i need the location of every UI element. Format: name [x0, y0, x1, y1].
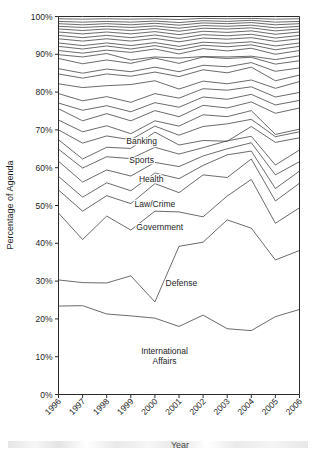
annotation-government: Government — [136, 222, 183, 232]
series-line-band-29 — [59, 18, 300, 19]
series-line-band-28 — [59, 20, 300, 22]
x-tick-label: 2002 — [187, 396, 208, 417]
annotation-affairs: Affairs — [153, 356, 177, 366]
series-line-international-affairs — [59, 306, 300, 331]
annotation-defense: Defense — [166, 278, 198, 288]
y-tick-label: 40% — [35, 238, 52, 248]
series-line-band-10 — [59, 111, 300, 135]
series-line-band-16 — [59, 63, 300, 74]
x-tick-labels: 1996199719981999200020012002200320042005… — [43, 396, 305, 417]
x-tick-label: 2004 — [235, 396, 256, 417]
y-tick-label: 50% — [35, 201, 52, 211]
series-annotations: BankingBankingSportsSportsHealthHealthLa… — [126, 136, 197, 366]
y-tick-label: 80% — [35, 87, 52, 97]
series-line-band-21 — [59, 42, 300, 47]
y-tick-label: 30% — [35, 276, 52, 286]
y-tick-label: 60% — [35, 163, 52, 173]
series-line-band-26 — [59, 25, 300, 28]
y-tick-label: 10% — [35, 352, 52, 362]
annotation-sports: Sports — [129, 155, 154, 165]
y-tick-label: 90% — [35, 49, 52, 59]
x-tick-label: 2003 — [211, 396, 232, 417]
annotation-health: Health — [139, 174, 164, 184]
series-line-band-12 — [59, 94, 300, 111]
series-line-band-20 — [59, 45, 300, 50]
series-line-band-11 — [59, 102, 300, 121]
chart-figure: 0%10%20%30%40%50%60%70%80%90%100% 199619… — [0, 0, 318, 455]
x-tick-label: 1997 — [67, 396, 88, 417]
x-tick-label: 2006 — [284, 396, 305, 417]
x-tick-label: 2000 — [139, 396, 160, 417]
series-line-band-19 — [59, 48, 300, 54]
annotation-law-crime: Law/Crime — [135, 199, 176, 209]
x-tick-label: 2001 — [163, 396, 184, 417]
y-tick-label: 70% — [35, 125, 52, 135]
annotation-banking: Banking — [126, 136, 157, 146]
series-line-band-18 — [59, 54, 300, 60]
x-tick-label: 1998 — [91, 396, 112, 417]
series-line-band-27 — [59, 23, 300, 26]
series-line-band-14 — [59, 80, 300, 89]
y-tick-label: 20% — [35, 314, 52, 324]
series-line-health — [59, 151, 300, 197]
y-tick-label: 100% — [31, 12, 53, 22]
y-axis-title: Percentage of Agenda — [5, 160, 15, 249]
chart-canvas: 0%10%20%30%40%50%60%70%80%90%100% 199619… — [0, 0, 318, 455]
caption-artifact — [8, 441, 308, 448]
y-tick-label: 0% — [40, 390, 53, 400]
x-tick-label: 1999 — [115, 396, 136, 417]
series-line-band-15 — [59, 67, 300, 81]
x-tick-label: 2005 — [260, 396, 281, 417]
series-line-banking — [59, 136, 300, 168]
y-tick-labels: 0%10%20%30%40%50%60%70%80%90%100% — [31, 12, 53, 400]
